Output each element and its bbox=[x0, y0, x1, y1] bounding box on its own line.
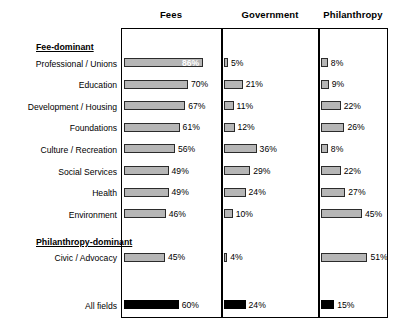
bar-government-0-1 bbox=[224, 80, 243, 89]
bar-government-0-6-value: 24% bbox=[249, 188, 266, 197]
bar-philanthropy-0-2 bbox=[321, 101, 341, 110]
bar-government-0-4 bbox=[224, 144, 257, 153]
bar-government-0-2 bbox=[224, 101, 234, 110]
bar-government-0-2-value: 11% bbox=[237, 102, 254, 111]
bar-fees-0-2-value: 67% bbox=[188, 102, 205, 111]
bar-fees-0-1-value: 70% bbox=[191, 80, 208, 89]
row-label-0-6: Health bbox=[0, 188, 117, 198]
grouped-bar-chart: FeesGovernmentPhilanthropyFee-dominantPr… bbox=[0, 0, 398, 332]
bar-government-0-6 bbox=[224, 188, 246, 197]
bar-fees-0-3 bbox=[124, 123, 180, 132]
section-header-0: Fee-dominant bbox=[36, 42, 94, 52]
row-label-all-fields: All fields bbox=[0, 301, 117, 311]
bar-philanthropy-0-6-value: 27% bbox=[348, 188, 365, 197]
bar-government-0-5-value: 29% bbox=[253, 167, 270, 176]
bar-fees-0-4 bbox=[124, 144, 176, 153]
section-header-1: Philanthropy-dominant bbox=[36, 237, 132, 247]
bar-philanthropy-1-0 bbox=[321, 253, 368, 262]
panel-header-philanthropy: Philanthropy bbox=[298, 9, 398, 20]
row-label-0-0: Professional / Unions bbox=[0, 59, 117, 69]
row-label-0-4: Culture / Recreation bbox=[0, 145, 117, 155]
bar-government-1-0-value: 4% bbox=[230, 253, 242, 262]
bar-philanthropy-0-1-value: 9% bbox=[332, 80, 344, 89]
bar-summary-government bbox=[224, 300, 246, 309]
bar-government-0-0 bbox=[224, 58, 229, 67]
bar-philanthropy-0-5 bbox=[321, 166, 341, 175]
row-label-1-0: Civic / Advocacy bbox=[0, 253, 117, 263]
bar-fees-0-7 bbox=[124, 209, 166, 218]
bar-philanthropy-0-6 bbox=[321, 188, 346, 197]
bar-fees-0-7-value: 46% bbox=[169, 210, 186, 219]
bar-summary-government-value: 24% bbox=[249, 301, 266, 310]
row-label-0-7: Environment bbox=[0, 210, 117, 220]
bar-fees-0-6-value: 49% bbox=[172, 188, 189, 197]
bar-summary-fees-value: 60% bbox=[182, 301, 199, 310]
bar-fees-0-5-value: 49% bbox=[172, 167, 189, 176]
bar-government-0-3 bbox=[224, 123, 235, 132]
bar-government-0-7-value: 10% bbox=[236, 210, 253, 219]
bar-philanthropy-0-0-value: 8% bbox=[331, 59, 343, 68]
bar-fees-0-0-value: 86% bbox=[182, 59, 199, 68]
bar-fees-1-0 bbox=[124, 253, 165, 262]
bar-philanthropy-0-0 bbox=[321, 58, 328, 67]
bar-philanthropy-0-7-value: 45% bbox=[365, 210, 382, 219]
bar-fees-0-3-value: 61% bbox=[183, 123, 200, 132]
bar-philanthropy-0-1 bbox=[321, 80, 329, 89]
panel-header-fees: Fees bbox=[116, 9, 226, 20]
bar-government-1-0 bbox=[224, 253, 228, 262]
bar-philanthropy-0-2-value: 22% bbox=[344, 102, 361, 111]
row-label-0-2: Development / Housing bbox=[0, 102, 117, 112]
bar-government-0-7 bbox=[224, 209, 233, 218]
bar-philanthropy-0-3-value: 26% bbox=[347, 123, 364, 132]
bar-fees-0-5 bbox=[124, 166, 169, 175]
bar-summary-philanthropy-value: 15% bbox=[337, 301, 354, 310]
bar-philanthropy-0-5-value: 22% bbox=[344, 167, 361, 176]
bar-fees-0-2 bbox=[124, 101, 186, 110]
bar-government-0-3-value: 12% bbox=[238, 123, 255, 132]
bar-philanthropy-0-7 bbox=[321, 209, 362, 218]
bar-government-0-5 bbox=[224, 166, 251, 175]
row-label-0-5: Social Services bbox=[0, 167, 117, 177]
bar-fees-0-6 bbox=[124, 188, 169, 197]
bar-government-0-4-value: 36% bbox=[260, 145, 277, 154]
bar-philanthropy-0-4 bbox=[321, 144, 328, 153]
bar-philanthropy-1-0-value: 51% bbox=[370, 253, 387, 262]
bar-fees-0-1 bbox=[124, 80, 188, 89]
bar-philanthropy-0-4-value: 8% bbox=[331, 145, 343, 154]
bar-philanthropy-0-3 bbox=[321, 123, 345, 132]
bar-summary-philanthropy bbox=[321, 300, 335, 309]
bar-fees-1-0-value: 45% bbox=[168, 253, 185, 262]
bar-fees-0-4-value: 56% bbox=[178, 145, 195, 154]
row-label-0-1: Education bbox=[0, 80, 117, 90]
bar-government-0-1-value: 21% bbox=[246, 80, 263, 89]
bar-government-0-0-value: 5% bbox=[231, 59, 243, 68]
bar-summary-fees bbox=[124, 300, 179, 309]
row-label-0-3: Foundations bbox=[0, 123, 117, 133]
